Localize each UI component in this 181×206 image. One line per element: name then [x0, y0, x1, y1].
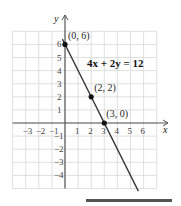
x-tick-label: 1	[75, 126, 80, 136]
x-axis-label: x	[162, 124, 168, 135]
y-tick-label: −4	[54, 170, 64, 180]
x-tick-label: −2	[36, 126, 46, 136]
y-tick-label: 1	[57, 105, 62, 115]
x-tick-label: 2	[88, 126, 93, 136]
y-tick-label: −2	[54, 144, 64, 154]
x-tick-label: 3	[101, 126, 106, 136]
point-label: (0, 6)	[68, 30, 90, 42]
graph: −3−2−1123456−4−3−2−1123456 (0, 6)(2, 2)(…	[0, 0, 181, 206]
bottom-bar	[86, 199, 172, 202]
y-tick-label: 6	[57, 39, 62, 49]
data-point	[62, 42, 67, 47]
data-point	[89, 94, 94, 99]
y-tick-label: 3	[57, 79, 62, 89]
equation-label: 4x + 2y = 12	[87, 57, 144, 69]
y-axis-label: y	[53, 13, 59, 24]
x-tick-label: 5	[128, 126, 133, 136]
y-tick-label: −3	[54, 157, 64, 167]
x-tick-label: −3	[23, 126, 33, 136]
x-tick-label: 4	[114, 126, 119, 136]
point-label: (2, 2)	[94, 82, 116, 94]
y-tick-label: 4	[57, 66, 62, 76]
y-tick-label: 5	[57, 53, 62, 63]
x-tick-label: 6	[141, 126, 146, 136]
point-label: (3, 0)	[106, 108, 128, 120]
y-tick-label: −1	[54, 131, 64, 141]
data-point	[102, 120, 107, 125]
grid	[13, 31, 157, 188]
y-tick-label: 2	[57, 92, 62, 102]
